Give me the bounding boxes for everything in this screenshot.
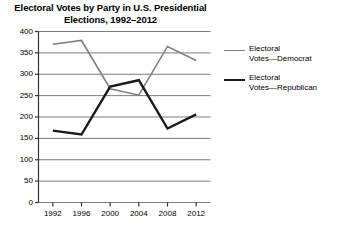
line-chart-svg	[0, 0, 337, 230]
plot-area	[0, 0, 337, 230]
legend-label-democrat-line-2: Votes—Democrat	[249, 54, 337, 64]
y-axis-tick-label: 50	[3, 177, 33, 185]
x-axis-tick-label: 2012	[179, 210, 213, 218]
series-line-republican	[53, 80, 196, 134]
y-axis-tick-label: 0	[3, 199, 33, 207]
legend-item-republican[interactable]: Electoral Votes—Republican	[224, 73, 337, 95]
y-axis-tick-label: 400	[3, 28, 33, 36]
y-axis-tick-label: 100	[3, 156, 33, 164]
legend-label-republican-line-2: Votes—Republican	[249, 83, 337, 93]
legend-swatch-democrat	[224, 50, 245, 51]
chart-legend: Electoral Votes—Democrat Electoral Votes…	[224, 44, 337, 102]
legend-swatch-republican	[224, 79, 245, 81]
legend-item-democrat[interactable]: Electoral Votes—Democrat	[224, 44, 337, 66]
chart-container: Electoral Votes by Party in U.S. Preside…	[0, 0, 337, 230]
y-axis-tick-label: 350	[3, 49, 33, 57]
legend-label-democrat-line-1: Electoral	[249, 44, 337, 54]
y-axis-tick-label: 250	[3, 92, 33, 100]
y-axis-tick-label: 200	[3, 113, 33, 121]
y-axis-tick-label: 150	[3, 134, 33, 142]
y-axis-tick-label: 300	[3, 70, 33, 78]
legend-label-republican-line-1: Electoral	[249, 73, 337, 83]
series-line-democrat	[53, 40, 196, 95]
